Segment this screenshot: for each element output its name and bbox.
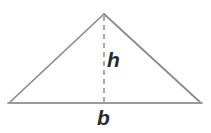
height-label: h (107, 49, 120, 70)
triangle-left-edge (9, 14, 104, 103)
base-label: b (97, 107, 110, 128)
triangle-diagram-canvas: h b (0, 0, 211, 133)
